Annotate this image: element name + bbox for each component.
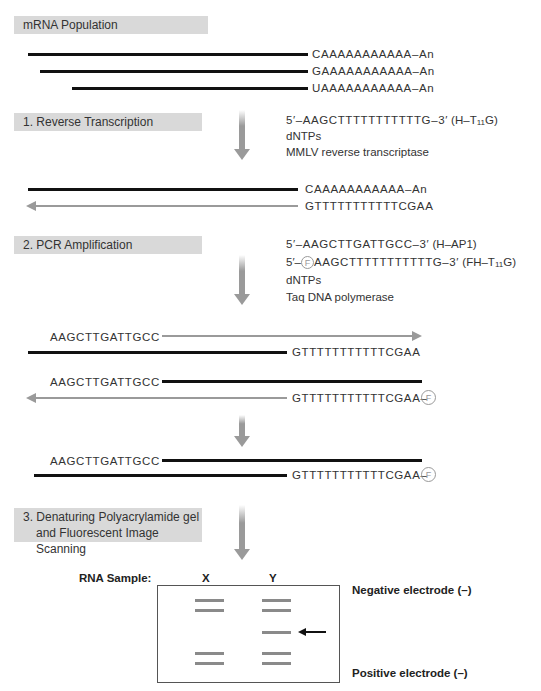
band-y-unique xyxy=(262,631,291,634)
step3-line-2: and Fluorescent Image Scanning xyxy=(23,525,202,557)
fluorescent-tag-icon: F xyxy=(421,467,436,482)
mrna-seq-1: CAAAAAAAAAAA–An xyxy=(312,47,434,61)
gel-panel xyxy=(157,585,340,683)
pcr-primer-2: 5′–FAAGCTTTTTTTTTTTG–3′ (FH–T11G) xyxy=(286,254,516,273)
rt-cdna-seq: GTTTTTTTTTTTCGAA xyxy=(305,199,433,213)
pcr-a-top-strand-arrow xyxy=(162,335,420,337)
down-arrow-icon xyxy=(239,255,245,295)
negative-electrode-label: Negative electrode (–) xyxy=(352,584,472,596)
final-top-seq: AAGCTTGATTGCC xyxy=(50,454,160,468)
band-y-4 xyxy=(262,652,291,655)
rt-rna-seq: CAAAAAAAAAAA–An xyxy=(305,182,427,196)
band-y-2 xyxy=(262,609,291,612)
rna-sample-label: RNA Sample: xyxy=(79,572,151,584)
mrna-seq-3: UAAAAAAAAAAA–An xyxy=(312,81,434,95)
pcr-dntps: dNTPs xyxy=(286,272,321,288)
pcr-b-bottom-strand-arrow xyxy=(28,397,287,399)
rt-enzyme: MMLV reverse transcriptase xyxy=(286,144,429,160)
down-arrow-icon xyxy=(239,110,245,150)
final-bottom-seq: GTTTTTTTTTTTCGAA– xyxy=(292,468,427,482)
rt-dntps: dNTPs xyxy=(286,128,321,144)
step3-line-1: 3. Denaturing Polyacrylamide gel xyxy=(23,509,202,525)
final-bottom-strand xyxy=(34,474,287,477)
pcr-b-bottom-seq: GTTTTTTTTTTTCGAA– xyxy=(292,391,427,405)
pcr-a-bottom-strand xyxy=(28,351,287,354)
step-label-gel-scanning: 3. Denaturing Polyacrylamide gel and Flu… xyxy=(14,508,202,542)
step-label-mrna-population: mRNA Population xyxy=(14,16,208,34)
down-arrow-icon xyxy=(239,415,245,437)
rt-primer-name: (H–T11G) xyxy=(451,114,498,126)
rt-rna-strand xyxy=(28,188,298,191)
rt-cdna-strand-arrow xyxy=(28,205,298,207)
step-label-pcr-amplification: 2. PCR Amplification xyxy=(14,236,202,254)
mrna-strand-3 xyxy=(72,87,308,90)
mrna-strand-2 xyxy=(40,70,308,73)
pcr-a-bottom-seq: GTTTTTTTTTTTCGAA xyxy=(292,345,420,359)
band-y-5 xyxy=(262,662,291,665)
down-arrow-icon xyxy=(239,505,245,550)
rt-primer-seq: 5′–AAGCTTTTTTTTTTTG–3′ xyxy=(286,114,448,126)
positive-electrode-label: Positive electrode (–) xyxy=(352,667,468,679)
pcr-b-top-strand xyxy=(162,380,422,383)
fluorescent-tag-icon: F xyxy=(421,390,436,405)
mrna-seq-2: GAAAAAAAAAAA–An xyxy=(312,64,435,78)
lane-x-label: X xyxy=(202,572,210,584)
pcr-primer-1: 5′–AAGCTTGATTGCC–3′ (H–AP1) xyxy=(286,236,477,252)
pcr-b-top-seq: AAGCTTGATTGCC xyxy=(50,375,160,389)
unique-band-pointer-arrow-icon xyxy=(300,631,326,633)
final-top-strand xyxy=(162,459,422,462)
band-x-1 xyxy=(195,599,224,602)
band-x-4 xyxy=(195,662,224,665)
fluorescent-tag-icon: F xyxy=(301,256,314,269)
band-y-1 xyxy=(262,599,291,602)
mrna-strand-1 xyxy=(28,53,308,56)
pcr-a-top-seq: AAGCTTGATTGCC xyxy=(50,330,160,344)
band-x-3 xyxy=(195,652,224,655)
lane-y-label: Y xyxy=(269,572,277,584)
pcr-enzyme: Taq DNA polymerase xyxy=(286,289,394,305)
band-x-2 xyxy=(195,609,224,612)
step-label-reverse-transcription: 1. Reverse Transcription xyxy=(14,113,202,131)
